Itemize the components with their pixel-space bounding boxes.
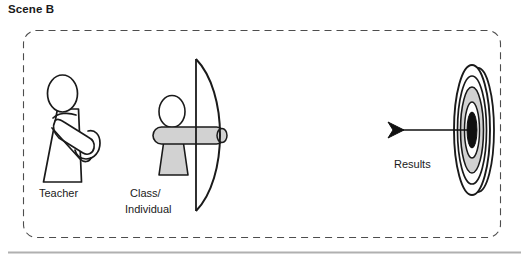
- scene-b-figure: Scene B Teacher: [0, 0, 529, 269]
- scene-diagram: Teacher Class/ Individual: [0, 0, 529, 269]
- teacher-head: [48, 75, 78, 112]
- archer-label-line1: Class/: [130, 187, 162, 199]
- teacher-figure: [44, 75, 101, 182]
- archer-body: [159, 140, 188, 175]
- teacher-label: Teacher: [39, 187, 78, 199]
- archer-arms: [153, 127, 225, 144]
- archer-figure: [153, 96, 227, 176]
- results-label: Results: [394, 158, 431, 170]
- scene-dashed-container: [24, 31, 501, 238]
- archer-head: [159, 96, 185, 128]
- archer-hand: [217, 129, 227, 143]
- archer-label-line2: Individual: [125, 203, 171, 215]
- arrow-head: [388, 122, 404, 138]
